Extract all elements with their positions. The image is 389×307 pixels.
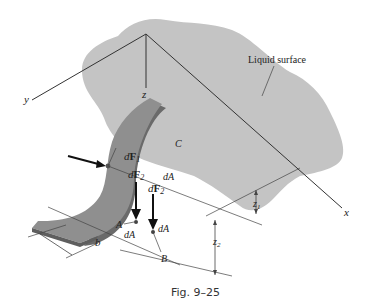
force-df2-a-label: dF2 xyxy=(128,168,144,182)
point-a-marker xyxy=(134,220,138,224)
z2-arrow-top xyxy=(213,220,217,225)
point-b-label: B xyxy=(161,253,167,264)
x-axis-label: x xyxy=(343,206,349,218)
b-leader xyxy=(153,232,161,252)
liquid-surface-label: Liquid surface xyxy=(248,54,307,65)
curved-plate xyxy=(32,98,162,243)
z-axis-label: z xyxy=(141,88,147,100)
force-df2-a-head xyxy=(131,209,141,220)
da-label-a: dA xyxy=(124,229,136,240)
force-df2-b-label: dF2 xyxy=(148,182,164,196)
z2-label: z2 xyxy=(212,236,221,249)
da-label-b: dA xyxy=(158,223,170,234)
y-axis-label: y xyxy=(23,93,29,105)
point-c-label: C xyxy=(175,138,182,149)
point-a-label: A xyxy=(115,219,123,230)
force-df1-head xyxy=(96,160,106,168)
figure-caption: Fig. 9–25 xyxy=(171,286,220,299)
a-leader xyxy=(124,222,134,224)
dimension-b-label: b xyxy=(95,236,101,248)
force-df2-b-head xyxy=(148,219,158,230)
figure-canvas: y z x Liquid surface C A B b dF1 dF2 dF2… xyxy=(0,0,389,307)
da-label-c: dA xyxy=(163,171,175,182)
